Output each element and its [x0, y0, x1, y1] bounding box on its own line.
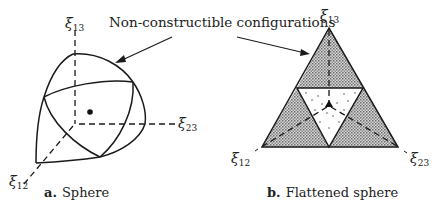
label-xi13-b: ξ13 — [320, 7, 339, 25]
panel-b-flattened-sphere: ξ13 ξ12 ξ23 b.Flattened sphere — [231, 7, 429, 200]
label-xi12-a: ξ12 — [9, 173, 28, 191]
annotation-text: Non-constructible configurations — [109, 14, 335, 30]
caption-b: b.Flattened sphere — [267, 185, 398, 200]
annotation: Non-constructible configurations — [109, 14, 335, 63]
label-xi12-b: ξ12 — [231, 150, 250, 168]
annotation-arrow-left — [120, 37, 172, 61]
label-xi23-b: ξ23 — [410, 150, 429, 168]
arrowhead-right-icon — [300, 49, 310, 56]
sphere-outer-left — [36, 97, 44, 163]
region-top — [297, 28, 363, 88]
sphere-inner-right-to-bottom — [100, 82, 133, 157]
figure-canvas: ξ13 ξ23 ξ12 a.Sphere Non-constructible c… — [0, 0, 436, 210]
sphere-center-point — [87, 109, 93, 115]
tick-xi12 — [255, 149, 258, 151]
sphere-outer-right — [100, 82, 145, 157]
label-xi23-a: ξ23 — [178, 115, 197, 133]
caption-a: a.Sphere — [44, 185, 109, 200]
annotation-arrow-right — [237, 37, 305, 53]
axis-xi12 — [24, 126, 73, 184]
sphere-curves — [36, 54, 145, 163]
panel-a-sphere: ξ13 ξ23 ξ12 a.Sphere — [9, 15, 197, 200]
sphere-inner-horizontal — [44, 81, 133, 97]
arrowhead-left-icon — [115, 55, 126, 63]
label-xi13-a: ξ13 — [65, 15, 84, 33]
tick-xi23 — [404, 151, 407, 153]
